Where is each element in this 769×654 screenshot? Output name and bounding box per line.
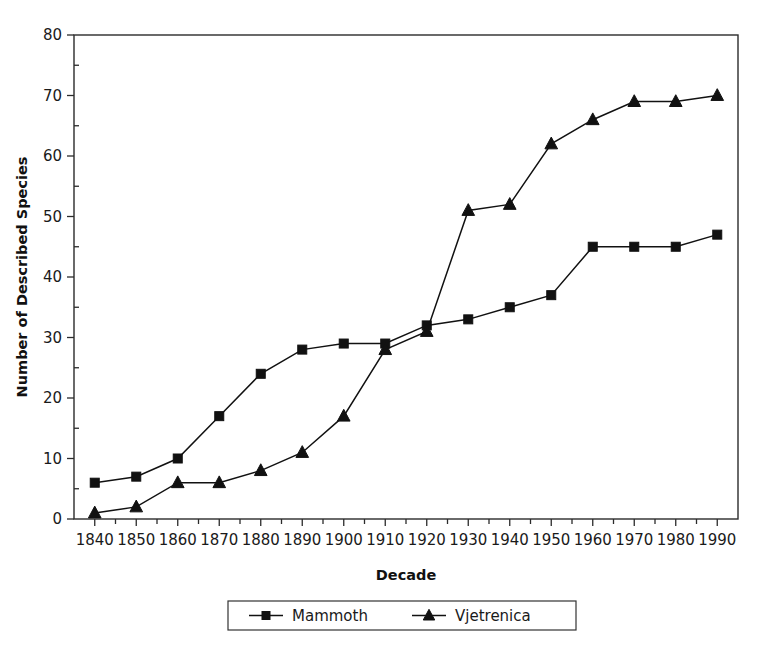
marker-square [256, 369, 265, 378]
marker-square [298, 345, 307, 354]
y-axis-title: Number of Described Species [14, 157, 30, 398]
x-tick-label: 1890 [283, 531, 321, 549]
x-tick-label: 1850 [117, 531, 155, 549]
marker-square [464, 315, 473, 324]
y-tick-label: 0 [52, 510, 62, 528]
y-tick-label: 40 [43, 268, 62, 286]
legend-label: Vjetrenica [455, 607, 531, 625]
marker-square [547, 291, 556, 300]
x-tick-label: 1930 [449, 531, 487, 549]
y-tick-label: 80 [43, 26, 62, 44]
chart-legend: MammothVjetrenica [228, 601, 576, 630]
x-tick-label: 1840 [76, 531, 114, 549]
x-axis: 1840185018601870188018901900191019201930… [76, 519, 737, 549]
x-tick-label: 1900 [325, 531, 363, 549]
x-tick-label: 1970 [615, 531, 653, 549]
x-axis-title: Decade [376, 567, 437, 583]
x-tick-label: 1950 [532, 531, 570, 549]
x-tick-label: 1940 [491, 531, 529, 549]
legend-marker-square [262, 612, 270, 620]
plot-area-border [74, 35, 738, 519]
x-tick-label: 1980 [657, 531, 695, 549]
y-tick-label: 50 [43, 208, 62, 226]
x-tick-label: 1870 [200, 531, 238, 549]
x-tick-label: 1920 [408, 531, 446, 549]
marker-square [588, 242, 597, 251]
x-tick-label: 1910 [366, 531, 404, 549]
y-tick-label: 20 [43, 389, 62, 407]
y-tick-label: 70 [43, 87, 62, 105]
marker-square [505, 303, 514, 312]
x-tick-label: 1880 [242, 531, 280, 549]
plot-frame [74, 35, 738, 519]
y-tick-label: 30 [43, 329, 62, 347]
marker-square [630, 242, 639, 251]
legend-label: Mammoth [292, 607, 368, 625]
x-tick-label: 1960 [574, 531, 612, 549]
marker-square [215, 412, 224, 421]
y-tick-label: 60 [43, 147, 62, 165]
x-tick-label: 1990 [698, 531, 736, 549]
marker-square [173, 454, 182, 463]
marker-square [132, 472, 141, 481]
x-tick-label: 1860 [159, 531, 197, 549]
y-tick-label: 10 [43, 450, 62, 468]
marker-square [90, 478, 99, 487]
chart-canvas: 01020304050607080 1840185018601870188018… [0, 0, 769, 654]
marker-square [713, 230, 722, 239]
marker-square [671, 242, 680, 251]
chart-figure: 01020304050607080 1840185018601870188018… [0, 0, 769, 654]
marker-square [339, 339, 348, 348]
